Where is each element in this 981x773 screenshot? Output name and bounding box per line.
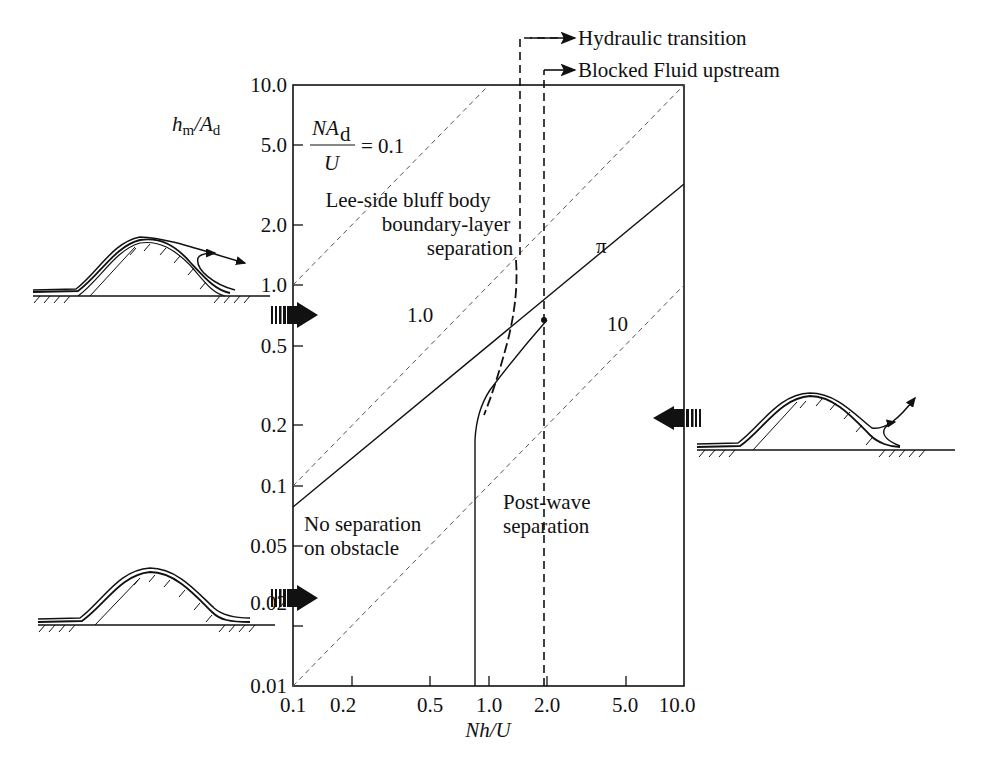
iso-lines	[293, 85, 684, 686]
chart-figure: 10.0 5.0 2.0 1.0 0.5 0.2 0.1 0.05 0.02 0…	[0, 0, 981, 773]
x-tick-label: 0.1	[280, 693, 306, 717]
x-axis-ticks	[352, 676, 626, 686]
x-axis-title: Nh/U	[464, 718, 512, 742]
svg-text:NA: NA	[311, 116, 339, 140]
post-wave-label-2: separation	[503, 514, 590, 538]
svg-text:= 0.1: = 0.1	[361, 134, 404, 158]
post-wave-label-1: Post-wave	[503, 490, 591, 514]
flow-arrow-icon-upper	[271, 302, 318, 328]
flow-arrow-icon-right	[653, 406, 701, 430]
x-tick-label: 0.2	[330, 693, 356, 717]
y-tick-label: 5.0	[261, 133, 287, 157]
y-tick-label: 0.5	[261, 334, 287, 358]
x-tick-label: 2.0	[534, 693, 560, 717]
hill-sketch-lee-separation-icon	[33, 237, 270, 303]
lee-side-label-2: boundary-layer	[382, 212, 510, 236]
y-tick-label: 2.0	[261, 213, 287, 237]
y-tick-label: 0.05	[250, 534, 287, 558]
hydraulic-transition-label: Hydraulic transition	[578, 26, 747, 50]
y-tick-label: 10.0	[250, 73, 287, 97]
x-axis-labels: 0.1 0.2 0.5 1.0 2.0 5.0 10.0	[280, 693, 696, 717]
svg-text:U: U	[324, 151, 341, 175]
svg-text:d: d	[340, 122, 351, 146]
plot-frame	[293, 85, 684, 686]
blocked-fluid-label: Blocked Fluid upstream	[578, 58, 780, 82]
no-separation-label-1: No separation	[304, 512, 422, 536]
iso-label-1.0: 1.0	[407, 303, 433, 327]
x-tick-label: 0.5	[417, 693, 443, 717]
y-tick-label: 1.0	[261, 273, 287, 297]
x-tick-label: 5.0	[612, 693, 638, 717]
y-axis-ticks	[293, 145, 303, 626]
pi-label: π	[596, 234, 607, 258]
x-tick-label: 10.0	[659, 693, 696, 717]
y-tick-label: 0.2	[261, 413, 287, 437]
x-tick-label: 1.0	[476, 693, 502, 717]
lee-side-label-3: separation	[427, 236, 514, 260]
lee-side-label-1: Lee-side bluff body	[325, 188, 491, 212]
hill-sketch-no-separation-icon	[38, 568, 275, 632]
y-tick-label: 0.1	[261, 474, 287, 498]
hill-sketch-post-wave-separation-icon	[697, 393, 955, 457]
fraction-label: NA d U = 0.1	[310, 116, 404, 175]
no-separation-label-2: on obstacle	[304, 536, 399, 560]
intersection-point	[541, 317, 547, 323]
iso-label-10: 10	[607, 312, 628, 336]
y-axis-title: hm/Ad	[172, 112, 221, 138]
